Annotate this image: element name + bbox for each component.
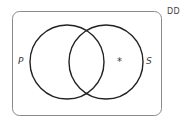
- set-p-circle: [30, 25, 104, 99]
- set-s-label: S: [146, 57, 152, 66]
- set-s-circle: [69, 25, 143, 99]
- set-p-label: P: [18, 57, 23, 66]
- venn-diagram: [0, 0, 188, 121]
- universe-label: DD: [167, 8, 180, 16]
- asterisk-marker: *: [117, 57, 122, 67]
- universe-box: [13, 12, 162, 116]
